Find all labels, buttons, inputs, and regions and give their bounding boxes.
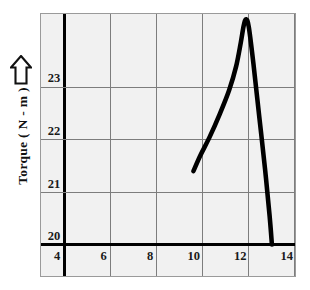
- x-tick-label: 6: [101, 249, 107, 264]
- plot-area: [40, 13, 296, 277]
- torque-curve: [193, 19, 272, 244]
- y-tick-label: 23: [48, 71, 61, 86]
- x-tick-label: 4: [54, 249, 60, 264]
- x-tick-label: 10: [187, 249, 200, 264]
- y-tick-label: 22: [48, 124, 61, 139]
- y-axis-label-block: Torque ( N - m ): [0, 13, 40, 277]
- y-tick-label: 20: [48, 229, 61, 244]
- x-tick-label: 14: [281, 249, 294, 264]
- x-tick-label: 12: [234, 249, 247, 264]
- x-tick-label: 8: [147, 249, 153, 264]
- torque-chart-figure: Torque ( N - m ) 20212223468101214: [0, 0, 310, 290]
- y-axis-title: Torque ( N - m ): [12, 36, 34, 236]
- y-tick-label: 21: [48, 177, 61, 192]
- grid-and-curve-svg: [41, 14, 295, 276]
